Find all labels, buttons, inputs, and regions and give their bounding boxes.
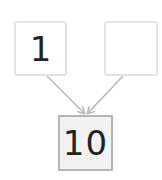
number-box-right[interactable] [104, 21, 158, 76]
arrow-right [88, 76, 123, 113]
number-left: 1 [30, 29, 52, 69]
number-box-bottom[interactable]: 10 [58, 115, 113, 171]
arrow-left [47, 76, 84, 113]
number-bottom: 10 [63, 123, 108, 163]
number-box-left[interactable]: 1 [14, 21, 67, 76]
